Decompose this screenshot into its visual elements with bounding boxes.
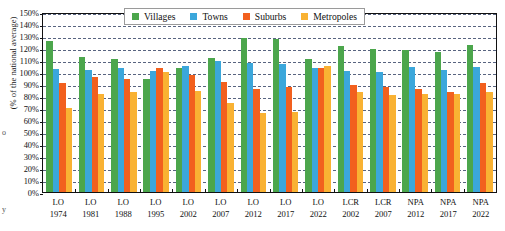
category-line2: 2012 [237,208,270,220]
x-axis-category-labels: LO1974LO1981LO1988LO1995LO2002LO2007LO20… [42,196,497,220]
suburbs-swatch-icon [243,13,250,20]
category-line1: NPA [465,196,498,208]
y-tick-label-0: 0% [28,190,39,198]
y-tick-label-40: 40% [24,142,39,150]
y-tick-mark-0 [40,194,43,195]
chart-legend: Villages Towns Suburbs Metropoles [124,8,365,25]
x-tick-mark [431,189,432,192]
bar-metropoles [163,72,169,192]
bar-group [43,14,75,192]
bar-metropoles [66,108,72,192]
category-line1: LO [107,196,140,208]
category-line1: LCR [335,196,368,208]
category-line2: 2022 [465,208,498,220]
category-line1: LO [172,196,205,208]
x-axis-category-label: NPA2012 [400,196,433,220]
category-line1: LO [302,196,335,208]
legend-item-metropoles: Metropoles [301,11,357,22]
y-tick-label-110: 110% [20,58,39,66]
bar-group [431,14,463,192]
legend-item-villages: Villages [132,11,175,22]
x-tick-mark [270,189,271,192]
bar-metropoles [486,92,492,192]
bar-groups [43,14,496,192]
legend-label-suburbs: Suburbs [255,11,286,22]
bar-metropoles [357,92,363,192]
y-tick-label-140: 140% [19,22,39,30]
category-line1: LO [140,196,173,208]
bar-group [237,14,269,192]
x-axis-category-label: LCR2007 [367,196,400,220]
y-tick-label-100: 100% [19,70,39,78]
x-tick-mark [237,189,238,192]
margin-mark-left-bottom: y [2,205,6,214]
x-axis-category-label: NPA2017 [432,196,465,220]
x-axis-category-label: LO1995 [140,196,173,220]
x-axis-category-label: LO2017 [270,196,303,220]
category-line2: 1981 [75,208,108,220]
bar-metropoles [454,94,460,192]
bar-group [140,14,172,192]
x-axis-category-label: LO2007 [205,196,238,220]
category-line2: 2007 [205,208,238,220]
x-axis-category-label: LO1988 [107,196,140,220]
legend-item-suburbs: Suburbs [243,11,286,22]
bar-metropoles [195,91,201,192]
category-line2: 2022 [302,208,335,220]
x-axis-category-label: LCR2002 [335,196,368,220]
y-tick-label-10: 10% [24,178,39,186]
category-line1: NPA [400,196,433,208]
category-line2: 2002 [335,208,368,220]
plot-area: 0%10%20%30%40%50%60%70%80%90%100%110%120… [42,13,497,193]
bar-group [270,14,302,192]
category-line2: 2007 [367,208,400,220]
x-axis-category-label: LO2012 [237,196,270,220]
chart-root: (% of the national average) o y Villages… [0,0,505,231]
bar-metropoles [260,113,266,192]
category-line1: NPA [432,196,465,208]
y-tick-label-90: 90% [24,82,39,90]
bar-group [399,14,431,192]
legend-label-villages: Villages [144,11,175,22]
x-tick-mark [205,189,206,192]
bar-group [75,14,107,192]
y-tick-label-60: 60% [24,118,39,126]
bar-metropoles [130,92,136,192]
category-line2: 1974 [42,208,75,220]
y-tick-label-70: 70% [24,106,39,114]
y-tick-label-80: 80% [24,94,39,102]
y-tick-label-20: 20% [24,166,39,174]
category-line2: 1988 [107,208,140,220]
y-axis-label: (% of the national average) [8,0,18,138]
y-tick-label-50: 50% [24,130,39,138]
y-tick-label-130: 130% [19,34,39,42]
bar-metropoles [389,95,395,192]
category-line2: 1995 [140,208,173,220]
legend-label-metropoles: Metropoles [313,11,357,22]
bar-metropoles [98,94,104,192]
x-axis-category-label: NPA2022 [465,196,498,220]
x-tick-mark [399,189,400,192]
x-tick-mark [464,189,465,192]
x-tick-mark [140,189,141,192]
bar-group [464,14,496,192]
x-tick-mark [172,189,173,192]
bar-metropoles [292,112,298,192]
x-tick-mark [75,189,76,192]
y-tick-label-30: 30% [24,154,39,162]
category-line2: 2017 [432,208,465,220]
category-line1: LO [270,196,303,208]
x-axis-category-label: LO1974 [42,196,75,220]
legend-label-towns: Towns [202,11,227,22]
bar-metropoles [324,66,330,192]
towns-swatch-icon [190,13,197,20]
bar-metropoles [227,103,233,192]
bar-group [108,14,140,192]
category-line2: 2002 [172,208,205,220]
x-axis-category-label: LO2002 [172,196,205,220]
x-axis-category-label: LO1981 [75,196,108,220]
metropoles-swatch-icon [301,13,308,20]
bar-group [302,14,334,192]
x-tick-mark [108,189,109,192]
margin-mark-left-mid: o [2,128,6,137]
